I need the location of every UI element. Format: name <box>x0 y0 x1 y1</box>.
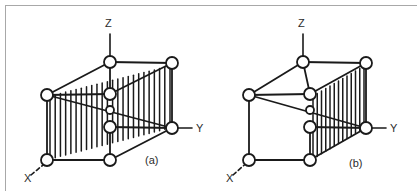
node-a-top-front <box>104 56 116 68</box>
edge-midcenter-topback <box>110 63 172 94</box>
edge-midleft-midcenter <box>249 94 310 95</box>
node-a-mid-small <box>106 106 114 114</box>
edge-top-rear <box>303 62 366 63</box>
edge-topfront-midleft <box>249 62 303 95</box>
node-b-mid-right <box>360 122 372 134</box>
node-b-mid-lower <box>304 121 316 133</box>
diagram-svg: ZYX(a)ZYX(b) <box>0 0 417 191</box>
node-a-mid-left <box>41 89 53 101</box>
axis-label-x: X <box>24 172 32 184</box>
node-b-mid-small <box>306 106 314 114</box>
edge-topfront-midleft <box>47 62 110 95</box>
node-b-bot-center <box>304 154 316 166</box>
axis-label-z: Z <box>105 17 112 29</box>
node-a-bot-center <box>104 154 116 166</box>
node-a-bot-left <box>41 154 53 166</box>
panel-b: ZYX(b) <box>226 17 398 184</box>
node-b-top-back <box>360 57 372 69</box>
node-b-mid-center <box>304 88 316 100</box>
node-a-top-back <box>166 57 178 69</box>
node-b-top-front <box>297 56 309 68</box>
edge-botcenter-midright <box>110 128 172 160</box>
node-a-mid-lower <box>104 121 116 133</box>
edge-top-rear <box>110 62 172 63</box>
panel-caption-a: (a) <box>145 154 158 166</box>
node-b-bot-left <box>243 154 255 166</box>
node-a-mid-right <box>166 122 178 134</box>
panel-a: ZYX(a) <box>24 17 204 184</box>
panel-caption-b: (b) <box>349 157 362 169</box>
node-b-mid-left <box>243 89 255 101</box>
axis-label-x: X <box>226 172 234 184</box>
figure-canvas: ZYX(a)ZYX(b) <box>0 0 417 191</box>
edge-midleft-midcenter <box>47 94 110 95</box>
edge-midlower-midright <box>110 127 172 128</box>
node-a-mid-center <box>104 88 116 100</box>
hatch-group-b <box>313 66 364 159</box>
edge-midlower-midright <box>310 127 366 128</box>
axis-label-y: Y <box>390 122 398 134</box>
axis-label-z: Z <box>298 17 305 29</box>
axis-label-y: Y <box>196 122 204 134</box>
